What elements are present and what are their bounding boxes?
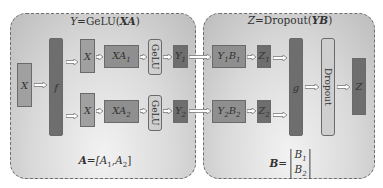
branch1-x-box: X	[80, 39, 95, 73]
input-x-box: X	[17, 63, 32, 107]
matrix-b: B1 B2	[290, 149, 310, 179]
formula-a: A=[A1,A2]	[79, 154, 132, 169]
arrow-z2-to-g	[273, 112, 287, 118]
input-x-label: X	[21, 80, 28, 91]
arrow-xa2-to-gelu2	[140, 108, 147, 114]
arrow-x-to-f	[34, 82, 47, 88]
branch2-xa-box: XA2	[104, 100, 139, 123]
arrow-y1b1-to-z1	[247, 54, 256, 60]
branch2-y-box: Y2	[173, 100, 188, 123]
arrow-z1-to-g	[273, 55, 287, 61]
branch1-yb-box: Y1B1	[212, 45, 246, 68]
arrow-dropout-to-z	[337, 84, 350, 90]
branch2-gelu-box: GeLU	[148, 95, 162, 131]
branch1-xa-label: XA1	[112, 50, 130, 64]
arrow-gelu1-to-y1	[163, 54, 172, 60]
split-f-box: f	[49, 38, 63, 136]
output-z-label: Z	[356, 81, 363, 92]
arrow-x1-to-xa1	[96, 54, 103, 60]
arrow-x2-to-xa2	[96, 108, 103, 114]
arrow-xa1-to-gelu1	[140, 54, 147, 60]
arrow-y2-to-y2b2	[189, 108, 211, 114]
branch2-yb-label: Y2B2	[218, 105, 241, 119]
output-z-box: Z	[352, 58, 366, 115]
title-close: )	[328, 14, 332, 26]
arrow-f-to-x1	[66, 59, 78, 65]
dropout-box: Dropout	[321, 38, 335, 136]
branch1-gelu-box: GeLU	[148, 39, 162, 75]
reduce-g-label: g	[293, 82, 299, 93]
branch2-gelu-label: GeLU	[150, 100, 160, 126]
reduce-g-box: g	[289, 38, 303, 136]
branch1-z-label: Z1	[258, 50, 269, 64]
branch2-y-label: Y2	[175, 105, 186, 119]
branch2-xa-label: XA2	[112, 105, 130, 119]
dropout-label: Dropout	[323, 68, 333, 106]
branch2-z-box: Z2	[257, 100, 271, 123]
branch2-yb-box: Y2B2	[212, 100, 246, 123]
branch1-xa-box: XA1	[104, 45, 139, 68]
title-yb: YB	[312, 14, 328, 26]
branch2-x-box: X	[80, 93, 95, 127]
branch1-yb-label: Y1B1	[218, 50, 241, 64]
branch2-z-label: Z2	[258, 105, 269, 119]
branch1-gelu-label: GeLU	[150, 44, 160, 70]
title-gelu: =GeLU(	[77, 15, 120, 27]
title-xa: XA	[120, 15, 136, 27]
branch1-y-box: Y1	[173, 45, 188, 68]
arrow-g-to-dropout	[305, 84, 319, 90]
branch2-x-label: X	[84, 105, 91, 116]
branch1-x-label: X	[84, 51, 91, 62]
arrow-y1-to-y1b1	[189, 54, 211, 60]
title-y: Y	[70, 15, 77, 27]
arrow-gelu2-to-y2	[163, 108, 172, 114]
arrow-f-to-x2	[66, 113, 78, 119]
title-close: )	[136, 15, 140, 27]
branch1-y-label: Y1	[175, 50, 186, 64]
branch1-z-box: Z1	[257, 45, 271, 68]
title-dropout: =Dropout(	[255, 14, 312, 26]
arrow-y2b2-to-z2	[247, 108, 256, 114]
left-panel-title: Y=GeLU(XA)	[70, 15, 140, 27]
formula-b: B= B1 B2	[269, 149, 310, 179]
split-f-label: f	[54, 82, 58, 93]
right-panel-title: Z=Dropout(YB)	[248, 14, 332, 26]
